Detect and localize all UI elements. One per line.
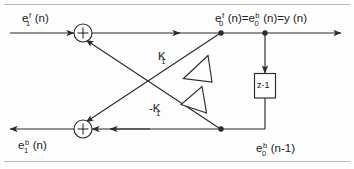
label-output-top: ef0(n)=eb0(n)=y (n)	[215, 13, 307, 25]
label-gain-neg-k1: -K1	[149, 103, 165, 115]
label-forward-input: ef1(n)	[22, 13, 49, 25]
label-delayed-backward: eb0(n-1)	[256, 143, 295, 155]
backward-tap-node	[218, 126, 223, 131]
figure-container: ef1(n) ef0(n)=eb0(n)=y (n) eb1(n) eb0(n-…	[0, 0, 354, 169]
delay-tap-node	[262, 30, 267, 35]
forward-tap-node	[218, 30, 223, 35]
label-unit-delay: z-1	[257, 81, 270, 90]
gain-neg-k1-diagonal	[86, 40, 219, 128]
gain-k1-triangle	[184, 56, 213, 83]
label-gain-k1: K1	[158, 51, 170, 63]
label-backward-output: eb1(n)	[18, 140, 47, 152]
gain-neg-k1-triangle	[181, 87, 207, 114]
lattice-filter-signal-flow-diagram	[0, 0, 354, 169]
